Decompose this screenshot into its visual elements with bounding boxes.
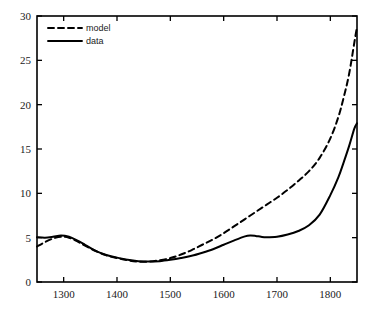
y-tick-label: 15 xyxy=(20,143,32,155)
legend-label-data: data xyxy=(86,36,104,46)
x-axis-tick-labels: 130014001500160017001800 xyxy=(53,288,342,300)
y-tick-label: 25 xyxy=(20,54,32,66)
y-tick-label: 20 xyxy=(20,99,32,111)
x-tick-label: 1700 xyxy=(266,288,289,300)
x-tick-label: 1800 xyxy=(319,288,342,300)
chart-figure: 130014001500160017001800 051015202530 mo… xyxy=(0,0,377,317)
legend-label-model: model xyxy=(86,23,111,33)
x-tick-label: 1600 xyxy=(213,288,236,300)
x-tick-label: 1400 xyxy=(106,288,129,300)
x-tick-label: 1500 xyxy=(159,288,182,300)
y-tick-label: 0 xyxy=(26,276,32,288)
y-tick-label: 30 xyxy=(20,10,32,22)
y-tick-label: 10 xyxy=(20,187,32,199)
y-tick-label: 5 xyxy=(26,232,32,244)
plot-area-background xyxy=(37,16,357,282)
y-axis-tick-labels: 051015202530 xyxy=(20,10,32,288)
x-tick-label: 1300 xyxy=(53,288,76,300)
line-chart: 130014001500160017001800 051015202530 mo… xyxy=(0,0,377,317)
